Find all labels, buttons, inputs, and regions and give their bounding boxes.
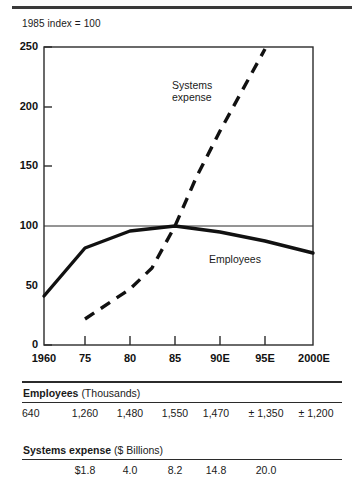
table-systems-expense-cell-75: $1.8 xyxy=(63,464,107,476)
table-employees-cell-75: 1,260 xyxy=(63,407,107,419)
x-axis-label-80: 80 xyxy=(108,352,152,364)
table-systems-expense: Systems expense ($ Billions) $1.8 4.0 8.… xyxy=(22,440,342,480)
table-systems-expense-cell-90E: 14.8 xyxy=(194,464,238,476)
table-systems-expense-heading: Systems expense ($ Billions) xyxy=(22,440,342,459)
chart-plot-area: 250 200 150 100 50 0 1960 75 80 85 90E 9… xyxy=(0,0,364,380)
table-employees-row: 640 1,260 1,480 1,550 1,470 ± 1,350 ± 1,… xyxy=(22,403,342,423)
series-employees-line xyxy=(44,226,313,296)
table-employees-cell-95E: ± 1,350 xyxy=(238,407,294,419)
x-tick-marks xyxy=(85,336,265,345)
table-systems-expense-cell-95E: 20.0 xyxy=(238,464,294,476)
table-systems-expense-heading-title: Systems expense xyxy=(23,444,111,456)
y-axis-label-150: 150 xyxy=(4,159,38,171)
table-employees-heading-title: Employees xyxy=(23,387,78,399)
y-axis-label-250: 250 xyxy=(4,40,38,52)
x-axis-label-95E: 95E xyxy=(243,352,287,364)
y-axis-label-200: 200 xyxy=(4,100,38,112)
table-systems-expense-cell-80: 4.0 xyxy=(108,464,152,476)
x-axis-label-75: 75 xyxy=(63,352,107,364)
table-employees-cell-85: 1,550 xyxy=(153,407,197,419)
series-label-employees: Employees xyxy=(209,253,261,265)
chart-svg xyxy=(0,0,364,380)
x-axis-label-90E: 90E xyxy=(198,352,242,364)
series-label-systems-expense-line2: expense xyxy=(172,91,212,103)
series-label-systems-expense: Systems expense xyxy=(172,79,212,103)
table-employees-cell-1960: 640 xyxy=(22,407,62,419)
x-axis-label-1960: 1960 xyxy=(22,352,66,364)
table-systems-expense-heading-unit: ($ Billions) xyxy=(114,444,163,456)
table-employees-heading-unit: (Thousands) xyxy=(81,387,140,399)
table-employees-heading: Employees (Thousands) xyxy=(22,383,342,402)
y-axis-label-0: 0 xyxy=(4,338,38,350)
y-axis-label-50: 50 xyxy=(4,279,38,291)
y-axis-label-100: 100 xyxy=(4,219,38,231)
y-tick-marks xyxy=(44,47,52,345)
series-label-systems-expense-line1: Systems xyxy=(172,79,212,91)
table-systems-expense-row: $1.8 4.0 8.2 14.8 20.0 xyxy=(22,460,342,480)
x-axis-label-2000E: 2000E xyxy=(288,352,340,364)
x-axis-label-85: 85 xyxy=(153,352,197,364)
table-employees-cell-90E: 1,470 xyxy=(194,407,238,419)
table-systems-expense-cell-85: 8.2 xyxy=(153,464,197,476)
table-employees-cell-80: 1,480 xyxy=(108,407,152,419)
table-employees-cell-2000E: ± 1,200 xyxy=(288,407,344,419)
table-employees: Employees (Thousands) 640 1,260 1,480 1,… xyxy=(22,381,342,423)
